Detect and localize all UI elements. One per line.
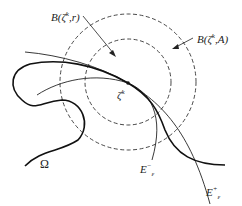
inner-ball-arrow-head bbox=[109, 50, 116, 57]
outer-ball-arrow-line bbox=[176, 38, 193, 47]
e-plus-label: E+ε bbox=[206, 186, 220, 201]
domain-boundary-curve bbox=[13, 62, 225, 166]
point-zeta-marker bbox=[126, 81, 130, 85]
inner-ball-arrow-line bbox=[83, 16, 114, 54]
point-zeta-label: ζk bbox=[117, 89, 125, 101]
e-minus-label: E−ε bbox=[140, 163, 154, 178]
outer-ball-arrow-head bbox=[172, 44, 179, 49]
outer-ball-label: B(ζk,A) bbox=[197, 33, 228, 45]
diagram-canvas bbox=[0, 0, 242, 206]
e-plus-curve bbox=[25, 52, 210, 204]
inner-ball-label: B(ζk,r) bbox=[51, 11, 80, 23]
domain-omega-label: Ω bbox=[40, 158, 49, 170]
